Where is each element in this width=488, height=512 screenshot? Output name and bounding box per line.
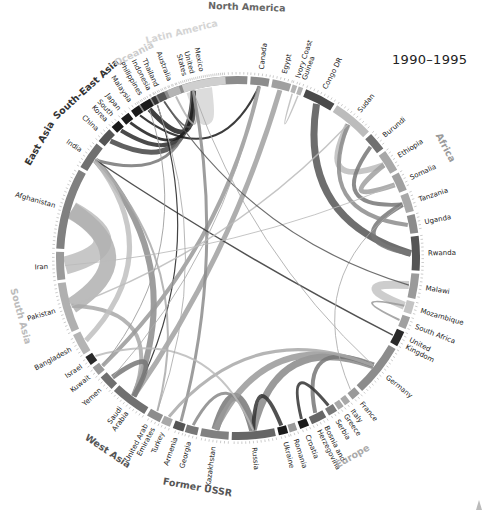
country-label-text: Bangladesh <box>33 346 73 373</box>
tick-mark <box>168 428 169 430</box>
tick-mark <box>331 416 332 418</box>
segment-tanzania[interactable] <box>400 193 413 213</box>
tick-mark <box>377 137 379 139</box>
tick-mark <box>386 366 388 367</box>
tick-mark <box>62 318 64 319</box>
tick-mark <box>314 89 315 91</box>
tick-mark <box>178 432 179 434</box>
tick-mark <box>405 181 407 182</box>
label-egypt: Egypt <box>281 53 294 75</box>
tick-mark <box>64 191 66 192</box>
tick-mark <box>162 88 163 90</box>
segment-canada[interactable] <box>250 76 269 86</box>
tick-mark <box>410 321 412 322</box>
label-burundi: Burundi <box>381 116 407 140</box>
tick-mark <box>353 113 355 115</box>
tick-mark <box>72 174 74 175</box>
segment-ivory-coast[interactable] <box>290 84 297 93</box>
tick-mark <box>151 420 152 422</box>
tick-mark <box>62 199 64 200</box>
tick-mark <box>139 413 140 415</box>
tick-mark <box>154 422 155 424</box>
label-georgia: Georgia <box>178 441 193 470</box>
tick-mark <box>147 96 148 98</box>
tick-mark <box>310 427 311 429</box>
tick-mark <box>79 162 81 163</box>
region-label-africa: Africa <box>434 131 458 164</box>
segment-france[interactable] <box>348 387 360 399</box>
label-united-kingdom: UnitedKingdom <box>404 336 439 364</box>
tick-mark <box>88 149 90 150</box>
tick-mark <box>115 119 117 121</box>
tick-mark <box>338 412 339 414</box>
segment-guinea[interactable] <box>296 86 303 95</box>
segment-iran[interactable] <box>56 252 65 281</box>
tick-mark <box>58 304 60 305</box>
tick-mark <box>411 195 413 196</box>
tick-mark <box>77 165 79 166</box>
tick-mark <box>377 378 379 380</box>
country-label-text: Burundi <box>381 116 407 140</box>
country-label-text: Canada <box>258 43 269 70</box>
country-label-text: Georgia <box>178 441 193 470</box>
segment-croatia[interactable] <box>298 418 310 429</box>
tick-mark <box>374 381 376 383</box>
tick-mark <box>334 100 335 102</box>
tick-mark <box>165 427 166 429</box>
segment-bosnia-and-herzegovina[interactable] <box>309 410 326 424</box>
segment-armenia[interactable] <box>173 420 186 431</box>
segment-romania[interactable] <box>287 423 297 433</box>
tick-mark <box>145 97 146 99</box>
tick-mark <box>313 425 314 427</box>
flow-ivory-coast-to-guinea <box>285 94 298 124</box>
tick-mark <box>161 89 162 91</box>
segment-turkey[interactable] <box>161 416 173 427</box>
tick-mark <box>395 353 397 354</box>
segment-kazakhstan[interactable] <box>200 428 229 440</box>
label-united-states: UnitedStates <box>175 50 196 77</box>
tick-mark <box>297 82 298 84</box>
tick-mark <box>68 333 70 334</box>
country-label-text: Pakistan <box>26 307 56 323</box>
tick-mark <box>362 121 364 123</box>
tick-mark <box>289 434 290 436</box>
tick-mark <box>61 202 63 203</box>
country-label-text: Mozambique <box>419 307 464 327</box>
tick-mark <box>120 400 122 402</box>
tick-mark <box>401 343 403 344</box>
tick-mark <box>324 420 325 422</box>
country-label-text: Tanzania <box>417 187 449 204</box>
tick-mark <box>409 325 411 326</box>
tick-mark <box>402 340 404 341</box>
tick-mark <box>199 76 200 78</box>
segment-malawi[interactable] <box>408 273 420 299</box>
tick-mark <box>83 360 85 361</box>
tick-mark <box>292 80 293 82</box>
segment-south-africa[interactable] <box>398 315 410 329</box>
country-label-text: Kazakhstan <box>204 446 217 487</box>
tick-mark <box>65 326 67 327</box>
segment-ethiopia[interactable] <box>379 151 397 174</box>
country-label-text: Egypt <box>281 53 294 75</box>
segment-united-arab-emirates[interactable] <box>147 409 163 423</box>
segment-georgia[interactable] <box>185 424 199 435</box>
segment-rwanda[interactable] <box>411 236 420 271</box>
tick-mark <box>61 315 63 316</box>
tick-mark <box>407 185 409 186</box>
tick-mark <box>379 375 381 377</box>
tick-mark <box>407 329 409 330</box>
tick-mark <box>382 372 384 374</box>
tick-mark <box>132 105 133 107</box>
segment-ukraine[interactable] <box>277 425 288 435</box>
label-rwanda: Rwanda <box>428 249 456 258</box>
tick-mark <box>64 322 66 323</box>
tick-mark <box>71 338 73 339</box>
tick-mark <box>393 158 395 159</box>
tick-mark <box>106 127 108 129</box>
flow-united-states-to-armenia <box>181 91 207 421</box>
country-label-text: Ethiopia <box>396 138 424 160</box>
tick-mark <box>196 437 197 439</box>
tick-mark <box>413 202 415 203</box>
tick-mark <box>335 414 336 416</box>
segment-uganda[interactable] <box>407 214 418 234</box>
